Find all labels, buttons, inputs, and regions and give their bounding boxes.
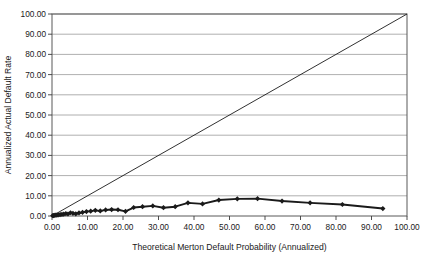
x-axis-tick-label: 80.00	[326, 222, 347, 232]
y-axis-tick-label: 100.00	[21, 9, 47, 19]
chart-container: 0.0010.0020.0030.0040.0050.0060.0070.008…	[0, 0, 433, 265]
y-axis-tick-label: 40.00	[25, 130, 46, 140]
y-axis-title: Annualized Actual Default Rate	[3, 56, 13, 175]
default-rate-scatter-chart: 0.0010.0020.0030.0040.0050.0060.0070.008…	[0, 0, 433, 265]
x-axis-tick-label: 0.00	[44, 222, 61, 232]
x-axis-tick-labels: 0.0010.0020.0030.0040.0050.0060.0070.008…	[44, 222, 420, 232]
x-axis-tick-label: 100.00	[394, 222, 420, 232]
y-axis-tick-labels: 0.0010.0020.0030.0040.0050.0060.0070.008…	[21, 9, 47, 221]
y-axis-tick-label: 80.00	[25, 49, 46, 59]
x-axis-tick-label: 10.00	[77, 222, 98, 232]
x-axis-tick-label: 70.00	[290, 222, 311, 232]
y-axis-tick-label: 20.00	[25, 171, 46, 181]
x-axis-tick-label: 20.00	[113, 222, 134, 232]
y-axis-tick-marks	[48, 14, 52, 216]
y-axis-tick-label: 30.00	[25, 150, 46, 160]
x-axis-tick-label: 40.00	[184, 222, 205, 232]
y-axis-tick-label: 10.00	[25, 191, 46, 201]
x-axis-tick-label: 60.00	[255, 222, 276, 232]
y-axis-tick-label: 90.00	[25, 29, 46, 39]
x-axis-title: Theoretical Merton Default Probability (…	[132, 242, 327, 252]
x-axis-tick-label: 90.00	[361, 222, 382, 232]
x-axis-tick-marks	[52, 216, 407, 220]
y-axis-tick-label: 0.00	[30, 211, 47, 221]
y-axis-tick-label: 60.00	[25, 90, 46, 100]
y-axis-tick-label: 50.00	[25, 110, 46, 120]
x-axis-tick-label: 30.00	[148, 222, 169, 232]
y-axis-tick-label: 70.00	[25, 70, 46, 80]
x-axis-tick-label: 50.00	[219, 222, 240, 232]
